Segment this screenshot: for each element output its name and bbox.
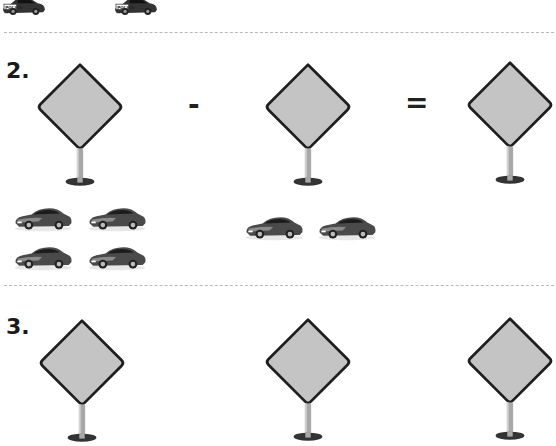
car-image [86,242,148,272]
car-image [12,242,74,272]
car-image [243,212,305,242]
problem-number: 2. [6,58,30,83]
minuend-sign-box[interactable] [37,311,127,446]
car-image [86,203,148,233]
car-image [316,212,378,242]
minus-operator: - [188,88,200,121]
police-car-image [112,0,160,16]
problem-number: 3. [6,314,30,339]
police-car-image [0,0,48,16]
subtrahend-sign-box[interactable] [263,55,353,195]
section-divider [4,32,554,33]
section-divider [4,285,554,286]
equals-operator: = [405,86,428,119]
car-image [12,203,74,233]
minuend-sign-box[interactable] [35,55,125,195]
answer-sign-box[interactable] [465,309,555,446]
subtrahend-sign-box[interactable] [263,310,353,446]
answer-sign-box[interactable] [465,53,555,193]
